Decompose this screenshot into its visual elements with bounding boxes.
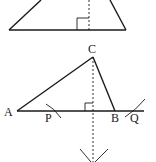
arc-bottom-left [80,149,91,162]
diagram-svg: C A P B Q [0,0,156,162]
top-right-angle-mark [77,18,89,30]
label-Q: Q [130,111,139,125]
side-AC [17,57,93,111]
label-A: A [4,105,13,119]
arc-bottom-right [95,149,108,162]
top-triangle [9,0,126,30]
top-left-side [9,0,41,30]
side-CB [93,57,115,111]
top-right-side [110,0,126,30]
label-P: P [45,111,52,125]
label-B: B [111,111,119,125]
bottom-triangle [17,57,145,162]
right-angle-mark [85,103,93,111]
geometry-diagram: C A P B Q [0,0,156,162]
label-C: C [88,42,96,56]
